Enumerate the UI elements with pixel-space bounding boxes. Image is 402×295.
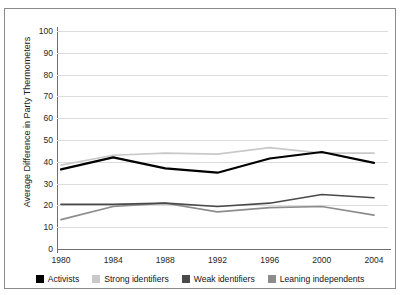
legend-item-leaning-independents[interactable]: Leaning independents <box>268 275 365 284</box>
x-tick-label: 2000 <box>312 256 331 265</box>
x-tick-label: 1992 <box>208 256 227 265</box>
y-axis-ticks: 0102030405060708090100 <box>13 31 53 249</box>
y-tick-label: 90 <box>19 49 53 58</box>
series-line-weak-identifiers <box>61 195 374 207</box>
x-tick-label: 1988 <box>156 256 175 265</box>
y-tick-label: 20 <box>19 201 53 210</box>
legend-item-weak-identifiers[interactable]: Weak identifiers <box>182 275 255 284</box>
chart-legend: ActivistsStrong identifiersWeak identifi… <box>5 271 395 287</box>
legend-item-activists[interactable]: Activists <box>36 275 80 284</box>
x-tick-label: 1984 <box>104 256 123 265</box>
legend-label: Strong identifiers <box>104 275 169 284</box>
legend-swatch-icon <box>268 275 276 283</box>
y-tick-label: 0 <box>19 245 53 254</box>
series-lines <box>57 31 388 249</box>
legend-swatch-icon <box>92 275 100 283</box>
y-tick-label: 30 <box>19 180 53 189</box>
legend-label: Activists <box>48 275 80 284</box>
y-tick-label: 50 <box>19 136 53 145</box>
x-tick-label: 1980 <box>52 256 71 265</box>
series-line-activists <box>61 152 374 173</box>
y-tick-label: 60 <box>19 114 53 123</box>
x-tick-label: 2004 <box>365 256 384 265</box>
y-tick-label: 10 <box>19 223 53 232</box>
chart-figure: Average Difference in Party Thermometers… <box>4 8 396 289</box>
series-line-strong-identifiers <box>61 148 374 165</box>
legend-item-strong-identifiers[interactable]: Strong identifiers <box>92 275 169 284</box>
legend-swatch-icon <box>182 275 190 283</box>
legend-label: Weak identifiers <box>194 275 255 284</box>
legend-label: Leaning independents <box>280 275 365 284</box>
y-tick-label: 100 <box>19 27 53 36</box>
x-tick-label: 1996 <box>260 256 279 265</box>
x-axis-ticks: 1980198419881992199620002004 <box>57 253 388 269</box>
x-axis-line <box>57 249 391 250</box>
y-tick-label: 40 <box>19 158 53 167</box>
y-tick-label: 80 <box>19 71 53 80</box>
y-tick-label: 70 <box>19 92 53 101</box>
legend-swatch-icon <box>36 275 44 283</box>
